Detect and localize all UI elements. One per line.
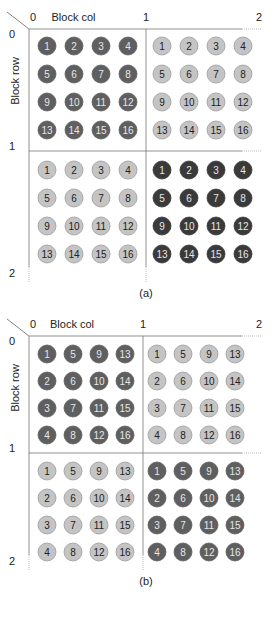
thread-index: 5 (159, 193, 165, 204)
thread-index: 3 (213, 41, 219, 52)
thread-index: 16 (122, 125, 134, 136)
corner-diagonal (7, 12, 29, 29)
thread-index: 8 (70, 547, 76, 558)
thread-index: 9 (206, 349, 212, 360)
thread-index: 6 (186, 69, 192, 80)
thread-index: 5 (70, 349, 76, 360)
thread-index: 12 (203, 430, 215, 441)
block-row-label: Block row (9, 364, 21, 412)
thread-index: 14 (68, 125, 80, 136)
thread-index: 7 (70, 520, 76, 531)
thread-index: 5 (180, 466, 186, 477)
thread-index: 3 (98, 165, 104, 176)
thread-index: 6 (70, 493, 76, 504)
thread-index: 2 (186, 165, 192, 176)
block-0-1: 15913261014371115481216 (148, 345, 244, 444)
thread-index: 14 (229, 493, 241, 504)
thread-index: 11 (96, 221, 107, 232)
thread-index: 7 (213, 69, 219, 80)
block-col-label: Block col (50, 318, 94, 330)
corner-diagonal (7, 319, 29, 336)
thread-index: 5 (44, 193, 50, 204)
thread-index: 9 (44, 97, 50, 108)
thread-index: 6 (186, 193, 192, 204)
col-tick: 1 (140, 318, 146, 330)
thread-index: 15 (229, 520, 241, 531)
thread-index: 15 (210, 125, 222, 136)
thread-index: 14 (119, 493, 131, 504)
thread-index: 4 (125, 41, 131, 52)
thread-index: 6 (180, 493, 186, 504)
thread-index: 8 (240, 69, 246, 80)
thread-index: 10 (68, 97, 80, 108)
thread-index: 16 (119, 430, 131, 441)
thread-index: 7 (70, 403, 76, 414)
thread-index: 5 (180, 349, 186, 360)
col-tick: 2 (256, 11, 262, 23)
thread-index: 3 (98, 41, 104, 52)
thread-index: 7 (213, 193, 219, 204)
thread-index: 5 (159, 69, 165, 80)
thread-index: 7 (98, 69, 104, 80)
thread-index: 14 (68, 249, 80, 260)
thread-index: 13 (119, 466, 131, 477)
thread-index: 1 (44, 466, 50, 477)
row-tick: 1 (9, 140, 15, 152)
thread-index: 14 (183, 125, 195, 136)
thread-index: 10 (183, 97, 195, 108)
thread-index: 16 (237, 249, 249, 260)
block-0-1: 12345678910111213141516 (153, 37, 252, 139)
thread-index: 10 (93, 376, 105, 387)
thread-index: 7 (180, 403, 186, 414)
thread-index: 15 (119, 403, 131, 414)
thread-index: 12 (122, 97, 134, 108)
thread-index: 15 (210, 249, 222, 260)
thread-index: 13 (156, 125, 168, 136)
thread-index: 7 (98, 193, 104, 204)
block-1-1: 12345678910111213141516 (153, 161, 252, 263)
thread-index: 2 (186, 41, 192, 52)
thread-index: 16 (229, 547, 241, 558)
thread-index: 12 (237, 221, 249, 232)
thread-index: 1 (159, 165, 165, 176)
thread-index: 13 (41, 125, 53, 136)
thread-index: 11 (204, 403, 215, 414)
thread-index: 9 (159, 221, 165, 232)
thread-index: 13 (229, 349, 241, 360)
thread-index: 13 (41, 249, 53, 260)
thread-index: 6 (71, 193, 77, 204)
thread-index: 8 (240, 193, 246, 204)
col-tick: 1 (143, 11, 149, 23)
thread-index: 4 (44, 430, 50, 441)
thread-index: 2 (71, 41, 77, 52)
thread-index: 2 (44, 493, 50, 504)
thread-index: 14 (229, 376, 241, 387)
thread-index: 1 (154, 466, 160, 477)
thread-index: 5 (44, 69, 50, 80)
thread-index: 16 (237, 125, 249, 136)
row-tick: 1 (9, 442, 15, 454)
panel-a: 012012Block colBlock row1234567891011121… (7, 11, 262, 299)
thread-index: 3 (44, 520, 50, 531)
thread-index: 4 (240, 41, 246, 52)
thread-index: 2 (71, 165, 77, 176)
thread-index: 11 (96, 97, 107, 108)
thread-index: 9 (96, 466, 102, 477)
thread-index: 8 (180, 430, 186, 441)
thread-index: 4 (154, 547, 160, 558)
thread-index: 13 (156, 249, 168, 260)
thread-index: 16 (122, 249, 134, 260)
thread-index: 1 (44, 41, 50, 52)
thread-index: 10 (183, 221, 195, 232)
thread-index: 10 (93, 493, 105, 504)
thread-index: 2 (44, 376, 50, 387)
thread-index: 11 (211, 221, 222, 232)
col-tick: 2 (256, 318, 262, 330)
block-0-0: 15913261014371115481216 (38, 345, 134, 444)
thread-index: 12 (122, 221, 134, 232)
thread-index: 5 (70, 466, 76, 477)
thread-index: 12 (203, 547, 215, 558)
col-tick: 0 (30, 11, 36, 23)
thread-index: 3 (154, 520, 160, 531)
thread-index: 15 (119, 520, 131, 531)
